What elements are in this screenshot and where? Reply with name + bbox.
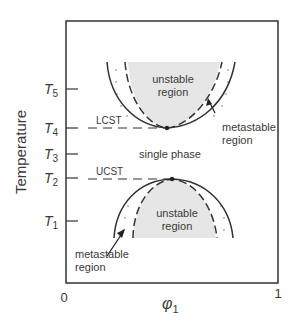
lower-unstable-label-line1: unstable bbox=[156, 207, 198, 219]
y-axis-label: Temperature bbox=[12, 110, 29, 194]
upper-metastable-label-line1: metastable bbox=[222, 121, 276, 133]
single-phase-label: single phase bbox=[139, 148, 201, 160]
t5-label: T5 bbox=[44, 81, 59, 99]
ucst-critical-point bbox=[170, 177, 174, 181]
lcst-critical-point bbox=[165, 126, 169, 130]
lcst-label: LCST bbox=[96, 115, 122, 126]
lower-metastable-label-line1: metastable bbox=[75, 248, 129, 260]
t1-label: T1 bbox=[44, 213, 59, 231]
upper-metastable-label-line2: region bbox=[222, 134, 253, 146]
x-axis-label: φ1 bbox=[162, 295, 179, 315]
t2-label: T2 bbox=[44, 170, 59, 188]
t4-label: T4 bbox=[44, 120, 59, 138]
ucst-label: UCST bbox=[96, 166, 123, 177]
upper-unstable-label-line2: region bbox=[158, 86, 189, 98]
x-tick-1: 1 bbox=[274, 286, 281, 301]
lower-unstable-label-line2: region bbox=[162, 220, 193, 232]
lower-metastable-label-line2: region bbox=[75, 261, 106, 273]
upper-unstable-label-line1: unstable bbox=[152, 73, 194, 85]
temperature-ticks bbox=[66, 89, 78, 221]
phase-diagram: unstable region metastable region single… bbox=[0, 0, 296, 326]
t3-label: T3 bbox=[44, 146, 59, 164]
x-tick-0: 0 bbox=[60, 290, 67, 305]
